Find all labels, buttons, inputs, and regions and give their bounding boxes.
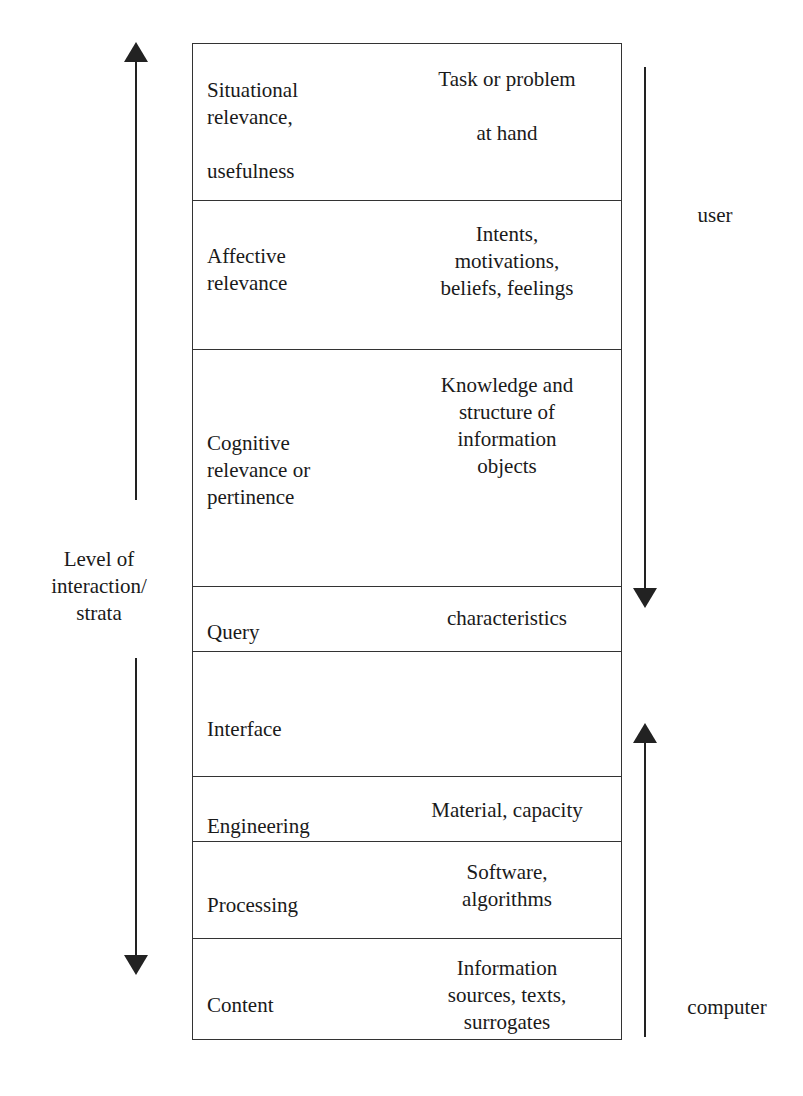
computer-label: computer — [672, 994, 782, 1021]
stratum-cognitive: Cognitive relevance or pertinence Knowle… — [193, 350, 621, 587]
stratum-description: Material, capacity — [407, 797, 607, 824]
stratum-situational: Situational relevance, usefulness Task o… — [193, 44, 621, 201]
stratum-content: Content Information sources, texts, surr… — [193, 939, 621, 1041]
strata-stack: Situational relevance, usefulness Task o… — [192, 43, 622, 1040]
stratum-label: Processing — [207, 892, 298, 919]
stratum-affective: Affective relevance Intents, motivations… — [193, 201, 621, 350]
stratum-label: Situational relevance, usefulness — [207, 77, 298, 185]
stratum-label: Engineering — [207, 813, 310, 840]
stratum-label: Interface — [207, 716, 282, 743]
stratum-processing: Processing Software, algorithms — [193, 842, 621, 939]
stratum-interface: Interface — [193, 652, 621, 777]
stratum-description: Intents, motivations, beliefs, feelings — [407, 221, 607, 302]
stratum-description: Task or problem at hand — [407, 66, 607, 147]
stratum-query: Query characteristics — [193, 587, 621, 652]
stratum-description: Information sources, texts, surrogates — [407, 955, 607, 1036]
stratum-description: Knowledge and structure of information o… — [407, 372, 607, 480]
stratum-engineering: Engineering Material, capacity — [193, 777, 621, 842]
stratum-label: Content — [207, 992, 274, 1019]
stratum-label: Cognitive relevance or pertinence — [207, 430, 310, 511]
user-label: user — [685, 202, 745, 229]
level-of-interaction-label: Level of interaction/ strata — [34, 546, 164, 627]
stratum-label: Affective relevance — [207, 243, 287, 297]
stratum-description: characteristics — [407, 605, 607, 632]
stratum-description: Software, algorithms — [407, 859, 607, 913]
stratum-label: Query — [207, 619, 259, 646]
